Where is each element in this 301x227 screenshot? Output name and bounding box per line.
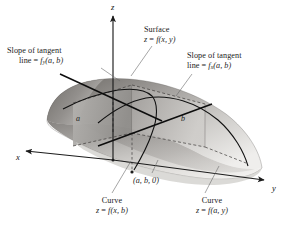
axis-label-y: y xyxy=(272,183,276,193)
base-point-ab0 xyxy=(130,170,133,173)
label-curve-xb-line1: Curve xyxy=(81,196,143,206)
label-curve-z-f-x-b: Curve z = f(x, b) xyxy=(81,196,143,215)
origin-point xyxy=(112,159,115,162)
label-slope-fy-line1: Slope of tangent xyxy=(7,46,63,56)
label-curve-ay-line1: Curve xyxy=(181,196,243,206)
label-slope-fy-line2: line = fy(a, b) xyxy=(7,56,63,68)
leader-surface xyxy=(131,46,152,76)
label-curve-z-f-a-y: Curve z = f(a, y) xyxy=(181,196,243,215)
label-slope-tangent-fx: Slope of tangent line = fx(a, b) xyxy=(187,51,241,72)
label-point-ab0: (a, b, 0) xyxy=(133,176,159,185)
label-slope-tangent-fy: Slope of tangent line = fy(a, b) xyxy=(7,46,63,67)
partial-derivatives-figure: Surface z = f(x, y) Slope of tangent lin… xyxy=(0,0,301,227)
tick-label-a: a xyxy=(76,114,80,123)
axis-label-z: z xyxy=(111,2,114,12)
axis-label-x: x xyxy=(16,152,20,162)
label-surface: Surface z = f(x, y) xyxy=(144,25,176,44)
label-curve-xb-line2: z = f(x, b) xyxy=(81,206,143,216)
label-curve-ay-line2: z = f(a, y) xyxy=(181,206,243,216)
label-slope-fx-line2: line = fx(a, b) xyxy=(187,61,241,73)
tick-label-b: b xyxy=(181,114,185,123)
label-surface-line2: z = f(x, y) xyxy=(144,35,176,45)
label-surface-line1: Surface xyxy=(144,25,176,35)
label-slope-fx-line1: Slope of tangent xyxy=(187,51,241,61)
